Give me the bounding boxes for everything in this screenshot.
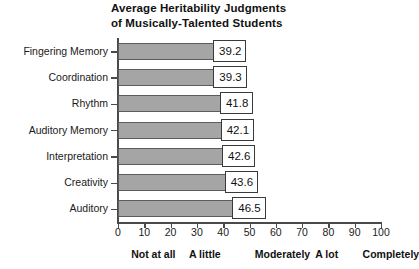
scale-anchor-label: Completely	[363, 248, 419, 260]
category-label: Rhythm	[0, 94, 108, 113]
y-axis-tick	[111, 156, 118, 157]
y-axis-tick	[111, 183, 118, 184]
bar	[118, 69, 221, 86]
bar	[118, 200, 240, 217]
category-label: Auditory Memory	[0, 121, 108, 140]
y-axis-tick	[111, 209, 118, 210]
category-label: Coordination	[0, 68, 108, 87]
bar-value-label: 39.3	[213, 66, 246, 88]
y-axis-tick	[111, 104, 118, 105]
bar-value-label: 43.6	[225, 171, 258, 193]
y-axis-tick	[111, 77, 118, 78]
bar-value-label: 42.6	[222, 145, 255, 167]
bar-value-label: 39.2	[213, 40, 246, 62]
bar	[118, 43, 221, 60]
category-label: Fingering Memory	[0, 42, 108, 61]
y-axis-tick	[111, 51, 118, 52]
scale-anchor-label: A little	[189, 248, 221, 260]
y-axis-tick	[111, 130, 118, 131]
bar-value-label: 42.1	[221, 119, 254, 141]
scale-anchor-label: Not at all	[131, 248, 175, 260]
scale-anchor-label: Moderately	[255, 248, 310, 260]
bar	[118, 148, 230, 165]
bar	[118, 95, 228, 112]
scale-anchor-label: A lot	[315, 248, 338, 260]
category-label: Creativity	[0, 173, 108, 192]
category-label: Interpretation	[0, 147, 108, 166]
bar	[118, 122, 229, 139]
bar	[118, 174, 233, 191]
bar-value-label: 46.5	[232, 197, 265, 219]
plot-area: Fingering Memory39.2Coordination39.3Rhyt…	[118, 38, 381, 222]
chart-title: Average Heritability Judgments of Musica…	[111, 1, 391, 30]
category-label: Auditory	[0, 199, 108, 218]
bar-value-label: 41.8	[220, 92, 253, 114]
x-axis-tick-label: 100	[361, 226, 401, 238]
